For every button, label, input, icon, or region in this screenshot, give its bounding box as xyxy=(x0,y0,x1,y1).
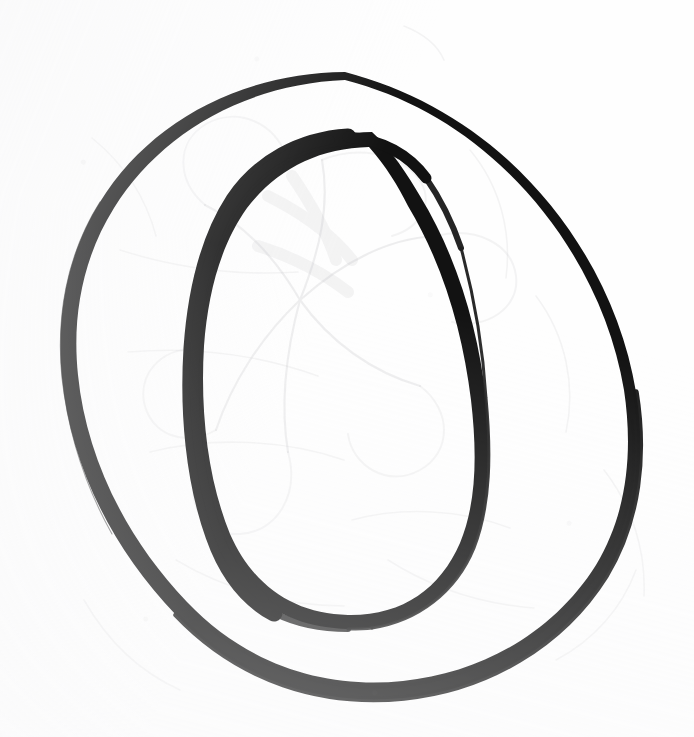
letter-o-outer-contour xyxy=(60,72,640,699)
scanned-page: An uppercase letter O drawn as two conce… xyxy=(0,0,694,737)
letter-o-counter-thin-stroke xyxy=(348,248,489,629)
letter-o-drawing xyxy=(0,0,694,737)
